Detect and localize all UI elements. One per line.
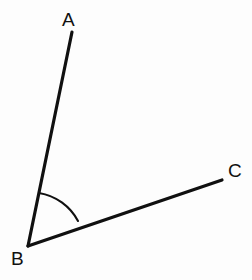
vertex-label-b: B — [11, 249, 24, 268]
vertex-label-a: A — [62, 10, 75, 29]
angle-figure-svg — [0, 0, 252, 280]
vertex-label-c: C — [228, 161, 242, 180]
ray-ba-line — [28, 32, 72, 246]
angle-arc-icon — [39, 193, 78, 221]
angle-figure-canvas: A B C — [0, 0, 252, 280]
ray-bc-line — [28, 180, 222, 246]
